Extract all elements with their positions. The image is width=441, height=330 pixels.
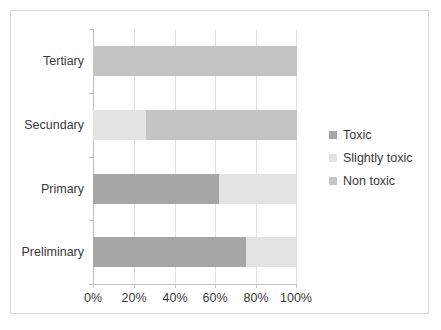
- bar-segment-slightly-toxic[interactable]: [219, 174, 297, 204]
- bar-row[interactable]: Tertiary: [93, 46, 297, 76]
- value-tick-40: [175, 284, 176, 288]
- bar-segment-non-toxic[interactable]: [93, 46, 297, 76]
- bar-segment-slightly-toxic[interactable]: [246, 237, 297, 267]
- legend: Toxic Slightly toxic Non toxic: [329, 123, 412, 192]
- value-label-40: 40%: [162, 291, 187, 305]
- value-tick-80: [256, 284, 257, 288]
- category-label-preliminary: Preliminary: [0, 237, 84, 267]
- legend-label-slightly-toxic: Slightly toxic: [343, 151, 412, 165]
- value-tick-100: [296, 284, 297, 288]
- legend-label-toxic: Toxic: [343, 128, 371, 142]
- value-label-100: 100%: [280, 291, 312, 305]
- bar-segment-toxic[interactable]: [93, 174, 219, 204]
- bar-segment-toxic[interactable]: [93, 237, 246, 267]
- value-tick-60: [215, 284, 216, 288]
- category-tick-secundary: [89, 93, 93, 94]
- bar-row[interactable]: Preliminary: [93, 237, 297, 267]
- value-tick-0: [93, 284, 94, 288]
- legend-label-non-toxic: Non toxic: [343, 174, 395, 188]
- bar-segment-slightly-toxic[interactable]: [93, 110, 146, 140]
- legend-item-slightly-toxic[interactable]: Slightly toxic: [329, 146, 412, 169]
- value-label-60: 60%: [202, 291, 227, 305]
- legend-item-non-toxic[interactable]: Non toxic: [329, 169, 412, 192]
- category-label-secundary: Secundary: [0, 110, 84, 140]
- value-tick-20: [134, 284, 135, 288]
- legend-swatch-icon: [329, 177, 337, 185]
- category-tick-preliminary: [89, 220, 93, 221]
- category-tick-tertiary: [89, 29, 93, 30]
- bar-row[interactable]: Primary: [93, 174, 297, 204]
- value-label-0: 0%: [84, 291, 102, 305]
- bar-segment-non-toxic[interactable]: [146, 110, 297, 140]
- category-label-tertiary: Tertiary: [0, 46, 84, 76]
- value-axis-line: [93, 284, 297, 285]
- legend-swatch-icon: [329, 131, 337, 139]
- chart-frame: Tertiary Secundary Primary Preliminary: [10, 10, 429, 314]
- legend-item-toxic[interactable]: Toxic: [329, 123, 412, 146]
- category-label-primary: Primary: [0, 174, 84, 204]
- plot-area: Tertiary Secundary Primary Preliminary: [93, 29, 297, 284]
- value-label-20: 20%: [121, 291, 146, 305]
- legend-swatch-icon: [329, 154, 337, 162]
- value-label-80: 80%: [243, 291, 268, 305]
- bar-row[interactable]: Secundary: [93, 110, 297, 140]
- category-tick-primary: [89, 157, 93, 158]
